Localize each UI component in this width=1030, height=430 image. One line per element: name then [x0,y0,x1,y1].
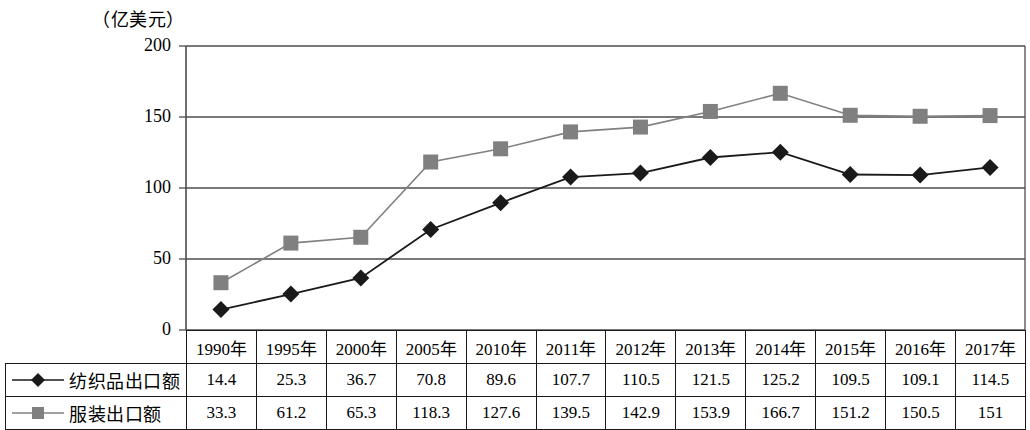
table-column-header: 2005年 [396,331,466,364]
data-point-square [283,236,298,251]
table-column-header: 2016年 [886,331,956,364]
data-point-diamond [982,159,999,176]
table-column-header: 2013年 [676,331,746,364]
data-point-square [423,155,438,170]
legend-row-textile: 纺织品出口额 [6,364,187,397]
table-cell: 151.2 [816,397,886,430]
data-point-diamond [912,167,929,184]
table-corner-cell [6,331,187,364]
table-cell: 127.6 [466,397,536,430]
data-point-diamond [632,165,649,182]
y-axis-tick-label: 50 [111,249,171,267]
legend-label: 服装出口额 [69,400,162,426]
table-cell: 125.2 [746,364,816,397]
table-cell: 107.7 [536,364,606,397]
data-point-square [983,108,998,123]
table-cell: 114.5 [955,364,1025,397]
table-cell: 142.9 [606,397,676,430]
table-column-header: 1990年 [187,331,257,364]
line-chart: 050100150200 [0,36,1030,336]
table-cell: 151 [955,397,1025,430]
table-cell: 121.5 [676,364,746,397]
data-point-diamond [702,149,719,166]
square-marker-icon [10,403,66,423]
data-point-square [913,109,928,124]
data-point-diamond [352,269,369,286]
table-cell: 150.5 [886,397,956,430]
table-column-header: 2015年 [816,331,886,364]
table-cell: 166.7 [746,397,816,430]
data-table: 1990年1995年2000年2005年2010年2011年2012年2013年… [5,330,1026,430]
table-cell: 25.3 [256,364,326,397]
table-body: 纺织品出口额14.425.336.770.889.6107.7110.5121.… [6,364,1026,430]
table-column-header: 2000年 [326,331,396,364]
data-point-square [353,230,368,245]
table-cell: 109.5 [816,364,886,397]
table-cell: 153.9 [676,397,746,430]
table-row: 纺织品出口额14.425.336.770.889.6107.7110.5121.… [6,364,1026,397]
data-point-square [563,124,578,139]
table-cell: 109.1 [886,364,956,397]
data-point-diamond [562,169,579,186]
y-axis-unit-label: （亿美元） [92,5,185,31]
table-cell: 118.3 [396,397,466,430]
table-cell: 14.4 [187,364,257,397]
table-cell: 110.5 [606,364,676,397]
data-point-square [703,104,718,119]
data-point-square [843,108,858,123]
table-column-header: 1995年 [256,331,326,364]
table-header-row: 1990年1995年2000年2005年2010年2011年2012年2013年… [6,331,1026,364]
table-column-header: 2017年 [955,331,1025,364]
table-row: 服装出口额33.361.265.3118.3127.6139.5142.9153… [6,397,1026,430]
y-axis-tick-label: 100 [111,178,171,196]
table-column-header: 2012年 [606,331,676,364]
data-point-square [773,86,788,101]
table-cell: 61.2 [256,397,326,430]
data-point-diamond [492,194,509,211]
table-column-header: 2011年 [536,331,606,364]
data-point-square [493,141,508,156]
y-axis-tick-label: 150 [111,107,171,125]
series-line-textile [221,152,990,309]
table-column-header: 2014年 [746,331,816,364]
table-cell: 89.6 [466,364,536,397]
data-point-diamond [282,286,299,303]
table-cell: 33.3 [187,397,257,430]
table-cell: 70.8 [396,364,466,397]
table-cell: 36.7 [326,364,396,397]
table-cell: 65.3 [326,397,396,430]
data-point-square [633,120,648,135]
legend-row-apparel: 服装出口额 [6,397,187,430]
data-point-diamond [842,166,859,183]
diamond-marker-icon [10,370,66,390]
table-head: 1990年1995年2000年2005年2010年2011年2012年2013年… [6,331,1026,364]
data-point-square [213,275,228,290]
data-point-diamond [772,144,789,161]
legend-label: 纺织品出口额 [69,367,180,393]
y-axis-tick-label: 200 [111,36,171,54]
data-point-diamond [422,221,439,238]
table-column-header: 2010年 [466,331,536,364]
table-cell: 139.5 [536,397,606,430]
data-point-diamond [212,301,229,318]
